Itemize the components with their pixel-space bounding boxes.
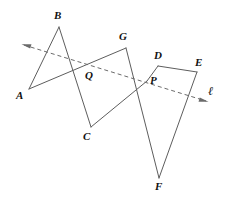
point-label-A: A (16, 90, 23, 101)
point-label-E: E (195, 57, 202, 68)
figure-canvas (0, 0, 228, 201)
segment-D-E (158, 66, 197, 72)
solid-segments-group (29, 27, 197, 178)
mirror-line-arrow-left (22, 44, 32, 48)
line-label-l: ℓ (208, 85, 213, 97)
point-label-C: C (83, 131, 90, 142)
geometry-figure: A B Q C G P D E F ℓ (0, 0, 228, 201)
segment-G-to-F (126, 48, 159, 178)
mirror-line-arrow-right (199, 98, 209, 102)
point-label-B: B (54, 10, 61, 21)
point-label-G: G (119, 31, 127, 42)
segment-A-to-G (29, 48, 126, 89)
point-label-P: P (150, 75, 157, 86)
segment-C-to-P (91, 81, 147, 127)
point-label-D: D (154, 50, 162, 61)
point-label-F: F (155, 181, 162, 192)
segment-AB (29, 27, 59, 89)
mirror-line-l (24, 45, 206, 101)
point-label-Q: Q (85, 70, 93, 81)
